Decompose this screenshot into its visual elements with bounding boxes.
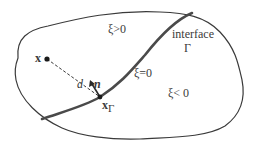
level-set-diagram: ξ>0 ξ=0 interface Γ ξ< 0 x d n xΓ <box>0 0 259 144</box>
label-region-positive: ξ>0 <box>108 22 126 36</box>
label-normal-n: n <box>94 77 101 91</box>
distance-line <box>47 59 100 97</box>
label-point-x-gamma: xΓ <box>102 98 114 114</box>
label-interface-symbol: Γ <box>184 41 191 55</box>
label-region-zero: ξ=0 <box>134 66 152 80</box>
point-x-dot <box>44 56 49 61</box>
label-point-x: x <box>35 51 41 65</box>
label-distance-d: d <box>77 77 84 91</box>
label-region-negative: ξ< 0 <box>168 86 189 100</box>
label-interface-word: interface <box>172 27 214 41</box>
